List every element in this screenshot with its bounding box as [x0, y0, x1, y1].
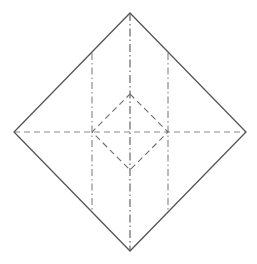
crease-pattern-diagram: [0, 0, 257, 264]
